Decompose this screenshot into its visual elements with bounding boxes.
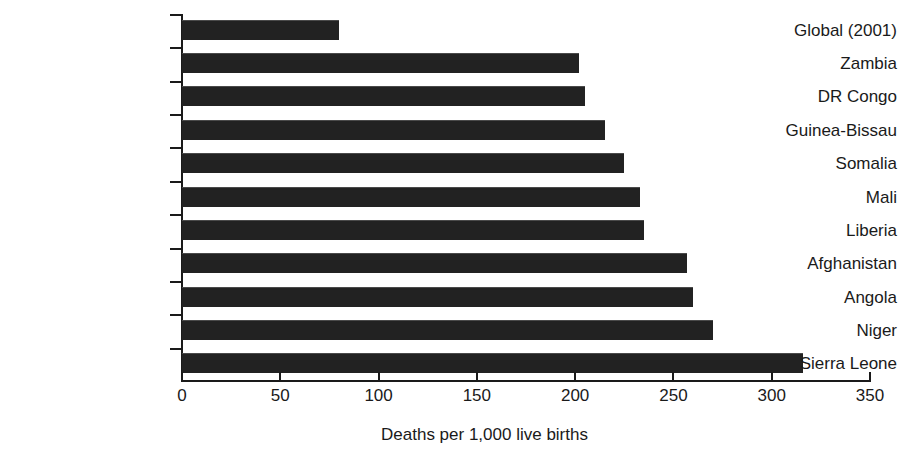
- bar: [182, 120, 605, 140]
- x-axis-tick-label: 350: [856, 386, 884, 406]
- category-label: Afghanistan: [731, 254, 907, 273]
- x-axis-tick-label: 150: [463, 386, 491, 406]
- x-axis-tick-label: 300: [758, 386, 786, 406]
- x-axis-tick: [574, 372, 576, 382]
- x-axis-tick-label: 0: [177, 386, 186, 406]
- bar: [182, 353, 803, 373]
- y-axis-tick: [170, 348, 182, 350]
- x-axis-tick: [476, 372, 478, 382]
- x-axis-tick: [771, 372, 773, 382]
- y-axis-tick: [170, 181, 182, 183]
- bar: [182, 220, 644, 240]
- x-axis-tick-label: 100: [364, 386, 392, 406]
- category-label: Guinea-Bissau: [731, 121, 907, 140]
- x-axis-tick-label: 50: [271, 386, 290, 406]
- bar: [182, 20, 339, 40]
- x-axis-title: Deaths per 1,000 live births: [0, 424, 907, 445]
- category-label: Somalia: [731, 154, 907, 173]
- y-axis-tick: [170, 147, 182, 149]
- y-axis-tick: [170, 214, 182, 216]
- y-axis-tick: [170, 114, 182, 116]
- y-axis-tick: [170, 281, 182, 283]
- x-axis-tick-label: 250: [659, 386, 687, 406]
- y-axis-tick: [170, 248, 182, 250]
- category-label: DR Congo: [731, 87, 907, 106]
- y-axis-tick: [170, 47, 182, 49]
- category-label: Angola: [731, 288, 907, 307]
- x-axis-tick: [378, 372, 380, 382]
- category-label: Zambia: [731, 54, 907, 73]
- category-label: Sierra Leone: [731, 354, 907, 373]
- x-axis-tick: [869, 372, 871, 382]
- category-label: Niger: [731, 321, 907, 340]
- bar: [182, 53, 579, 73]
- bar: [182, 287, 693, 307]
- bar: [182, 86, 585, 106]
- x-axis-tick: [672, 372, 674, 382]
- y-axis-tick: [170, 314, 182, 316]
- x-axis-tick: [279, 372, 281, 382]
- bar: [182, 253, 687, 273]
- x-axis-tick-label: 200: [561, 386, 589, 406]
- bar-chart: Global (2001)ZambiaDR CongoGuinea-Bissau…: [0, 0, 907, 468]
- y-axis-tick: [170, 14, 182, 16]
- category-label: Mali: [731, 188, 907, 207]
- category-label: Liberia: [731, 221, 907, 240]
- x-axis-line: [181, 380, 871, 382]
- bar: [182, 153, 624, 173]
- y-axis-tick: [170, 81, 182, 83]
- x-axis-tick: [181, 372, 183, 382]
- bar: [182, 320, 713, 340]
- category-label: Global (2001): [731, 21, 907, 40]
- bar: [182, 187, 640, 207]
